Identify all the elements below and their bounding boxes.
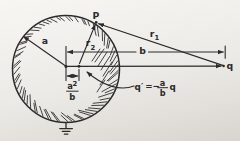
image-charge-point [78, 65, 81, 68]
eq-q: q [169, 82, 175, 92]
eq-qprime: q′ [135, 82, 144, 92]
label-r2-sub: 2 [91, 44, 96, 52]
a2b-denominator: b [69, 92, 75, 102]
image-charge-figure: P a r 2 r 1 b q a 2 b q′ = − a b q [0, 0, 240, 141]
label-r1-sub: 1 [154, 34, 159, 42]
label-q: q [226, 60, 233, 71]
r1-line [99, 24, 224, 66]
point-p-dot [95, 21, 98, 24]
a2b-superscript: 2 [72, 80, 77, 88]
eq-minus: − [152, 81, 159, 91]
label-a: a [42, 35, 48, 46]
center-point [65, 65, 68, 68]
figure-canvas: P a r 2 r 1 b q a 2 b q′ = − a b q [0, 0, 240, 141]
label-b: b [139, 45, 146, 56]
eq-denominator: b [160, 88, 166, 98]
charge-q-point [222, 65, 225, 68]
ground-symbol [60, 123, 73, 134]
eq-numerator: a [160, 78, 166, 88]
label-p: P [92, 10, 99, 21]
